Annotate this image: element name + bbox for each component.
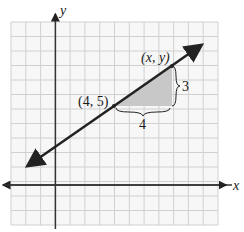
run-label: 4	[139, 117, 146, 132]
x-axis-label: x	[232, 178, 240, 193]
point-label-4-5: (4, 5)	[78, 94, 109, 110]
y-axis-label: y	[58, 3, 67, 18]
point-4-5	[112, 104, 116, 108]
rise-label: 3	[182, 79, 189, 94]
point-x-y	[170, 64, 174, 68]
coordinate-plane: y x (4, 5) (x, y) 3 4	[0, 0, 244, 232]
point-label-x-y: (x, y)	[141, 50, 170, 66]
